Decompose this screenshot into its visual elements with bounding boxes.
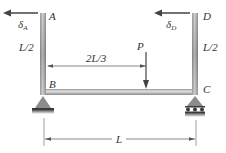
displacement-arrow-a	[3, 10, 38, 17]
label-point-c: C	[203, 83, 211, 95]
label-point-d: D	[202, 10, 211, 22]
label-delta-a: δA	[18, 18, 28, 32]
column-ab	[40, 13, 46, 95]
pin-support-icon	[32, 96, 54, 114]
displacement-arrow-d	[154, 10, 190, 17]
label-delta-d: δD	[166, 18, 176, 32]
dimension-2l3	[47, 64, 146, 68]
label-load-p: P	[136, 40, 144, 52]
column-dc	[192, 13, 198, 95]
label-left-height: L/2	[18, 41, 34, 53]
label-right-height: L/2	[202, 41, 218, 53]
label-point-a: A	[48, 10, 56, 22]
label-load-position: 2L/3	[86, 52, 107, 64]
load-arrow-p	[143, 52, 149, 89]
label-point-b: B	[49, 78, 56, 90]
roller-support-icon	[185, 96, 205, 117]
frame-diagram: A B C D P L/2 L/2 2L/3 L δA δD	[0, 0, 226, 153]
beam-bc	[46, 89, 192, 95]
label-span: L	[115, 133, 122, 145]
